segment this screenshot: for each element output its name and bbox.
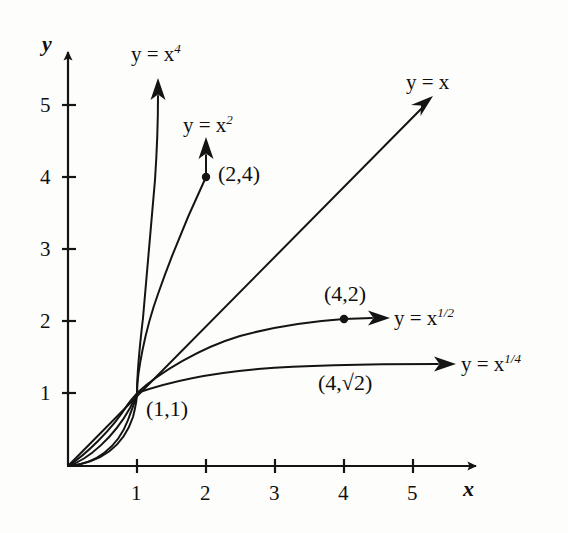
y-tick-label-5: 5 — [40, 95, 51, 116]
curve-label-xqtr-exponent: 1/4 — [504, 351, 521, 366]
curve-label-x4: y = x4 — [131, 42, 181, 65]
x-axis-label: x — [463, 478, 474, 500]
curve-xqtr — [68, 364, 438, 466]
x-tick-label-5: 5 — [407, 483, 418, 504]
curve-label-x2-text: y = x — [183, 113, 226, 137]
curve-label-xhalf-text: y = x — [394, 306, 437, 330]
curve-label-x2-exponent: 2 — [226, 112, 233, 127]
figure-svg — [0, 0, 568, 533]
curve-x1-arrowhead — [411, 96, 433, 116]
point-4-2-dot — [340, 315, 348, 323]
curve-x1 — [68, 106, 424, 466]
y-tick-label-3: 3 — [40, 239, 51, 260]
y-tick-label-1: 1 — [40, 383, 51, 404]
curve-label-xqtr-text: y = x — [461, 352, 504, 376]
curve-x4 — [68, 96, 158, 466]
y-tick-label-2: 2 — [40, 311, 51, 332]
curve-xhalf — [68, 319, 344, 466]
curve-label-x4-text: y = x — [131, 42, 174, 66]
curve-label-x1: y = x — [406, 70, 449, 93]
point-label-4-root-2: (4,√2) — [318, 372, 372, 394]
point-2-4-dot — [202, 173, 210, 181]
curve-label-x1-text: y = x — [406, 70, 449, 94]
x-tick-label-4: 4 — [338, 483, 349, 504]
power-functions-figure: y x 1 2 3 4 5 1 2 3 4 5 y = x4 y = x2 y … — [0, 0, 568, 533]
curve-label-xqtr: y = x1/4 — [461, 352, 521, 375]
point-label-1-1: (1,1) — [146, 398, 188, 420]
curve-xhalf-stem — [344, 318, 372, 319]
x-tick-label-1: 1 — [131, 483, 142, 504]
point-label-4-2: (4,2) — [324, 283, 366, 305]
curve-label-x4-exponent: 4 — [174, 41, 181, 56]
y-axis-label: y — [42, 33, 52, 55]
y-tick-label-4: 4 — [40, 167, 51, 188]
curve-label-x2: y = x2 — [183, 113, 233, 136]
curve-label-xhalf: y = x1/2 — [394, 306, 454, 329]
x-tick-label-2: 2 — [200, 483, 211, 504]
x-tick-label-3: 3 — [269, 483, 280, 504]
curve-x2 — [68, 177, 206, 466]
curve-label-xhalf-exponent: 1/2 — [437, 305, 454, 320]
point-label-2-4: (2,4) — [218, 163, 260, 185]
